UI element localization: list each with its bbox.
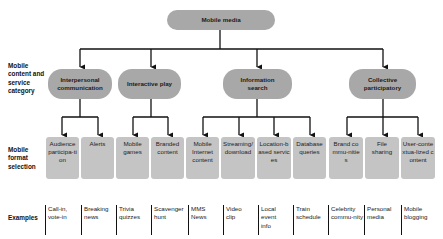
category-interactive-play: Interactive play: [118, 69, 181, 99]
format-label: Streaming/ download: [222, 140, 255, 156]
example-scavenger-hunt: Scavenger hunt: [151, 205, 187, 235]
format-label: User-contextua-lized content: [402, 140, 434, 165]
category-interpersonal-communication: Interpersonal communication: [48, 69, 112, 99]
example-personal-media: Personal media: [364, 205, 400, 235]
root-node: Mobile media: [167, 10, 275, 30]
format-audience-participation: Audience participa-tion: [46, 137, 79, 179]
format-label: Mobile Internet content: [189, 140, 217, 165]
example-local-event-info: Local event info: [258, 205, 292, 235]
category-label: Collective participatory: [358, 76, 408, 92]
example-label: Personal media: [367, 205, 400, 222]
row-label-category: Mobile content and service category: [8, 62, 48, 96]
format-streaming-download: Streaming/ download: [221, 137, 255, 179]
example-call-in-vote-in: Call-in, vote-in: [45, 205, 79, 235]
category-information-search: Information search: [223, 69, 292, 99]
format-label: Database queries: [294, 140, 325, 156]
format-label: File sharing: [370, 140, 394, 156]
format-label: Audience participa-tion: [48, 140, 78, 165]
example-label: Breaking news: [84, 205, 112, 222]
format-label: Branded content: [154, 140, 182, 156]
example-trivia-quizzes: Trivia quizzes: [116, 205, 150, 235]
format-user-contextualized-content: User-contextua-lized content: [401, 137, 435, 179]
category-collective-participatory: Collective participatory: [349, 69, 416, 99]
format-alerts: Alerts: [81, 137, 114, 179]
example-label: Celebrity commu-nity: [331, 205, 364, 222]
root-label: Mobile media: [201, 16, 240, 24]
example-mms-news: MMS News: [188, 205, 222, 235]
format-branded-content: Branded content: [151, 137, 184, 179]
row-label-examples: Examples: [8, 214, 48, 222]
format-label: Alerts: [90, 140, 106, 147]
format-mobile-internet-content: Mobile Internet content: [186, 137, 219, 179]
example-label: Trivia quizzes: [119, 205, 145, 222]
format-label: Location-based services: [258, 140, 290, 165]
connector-lines: [0, 0, 443, 239]
category-label: Information search: [238, 76, 278, 92]
category-label: Interpersonal communication: [53, 76, 107, 92]
format-label: Brand commu-nities: [332, 140, 360, 165]
example-label: Call-in, vote-in: [48, 205, 76, 222]
example-breaking-news: Breaking news: [81, 205, 115, 235]
example-label: Scavenger hunt: [154, 205, 188, 222]
example-label: Train schedule: [296, 205, 328, 222]
example-label: Video clip: [226, 205, 248, 222]
format-mobile-games: Mobile games: [116, 137, 149, 179]
row-label-format: Mobile format selection: [8, 146, 48, 171]
example-video-clip: Video clip: [223, 205, 257, 235]
example-celebrity-community: Celebrity commu-nity: [328, 205, 364, 235]
example-label: Mobile blogging: [404, 205, 436, 222]
example-label: Local event info: [261, 205, 281, 230]
example-label: MMS News: [191, 205, 211, 222]
format-brand-communities: Brand commu-nities: [329, 137, 363, 179]
example-train-schedule: Train schedule: [293, 205, 328, 235]
format-label: Mobile games: [120, 140, 146, 156]
example-mobile-blogging: Mobile blogging: [401, 205, 439, 235]
category-label: Interactive play: [127, 80, 172, 88]
format-location-based-services: Location-based services: [257, 137, 291, 179]
format-file-sharing: File sharing: [365, 137, 399, 179]
format-database-queries: Database queries: [293, 137, 326, 179]
